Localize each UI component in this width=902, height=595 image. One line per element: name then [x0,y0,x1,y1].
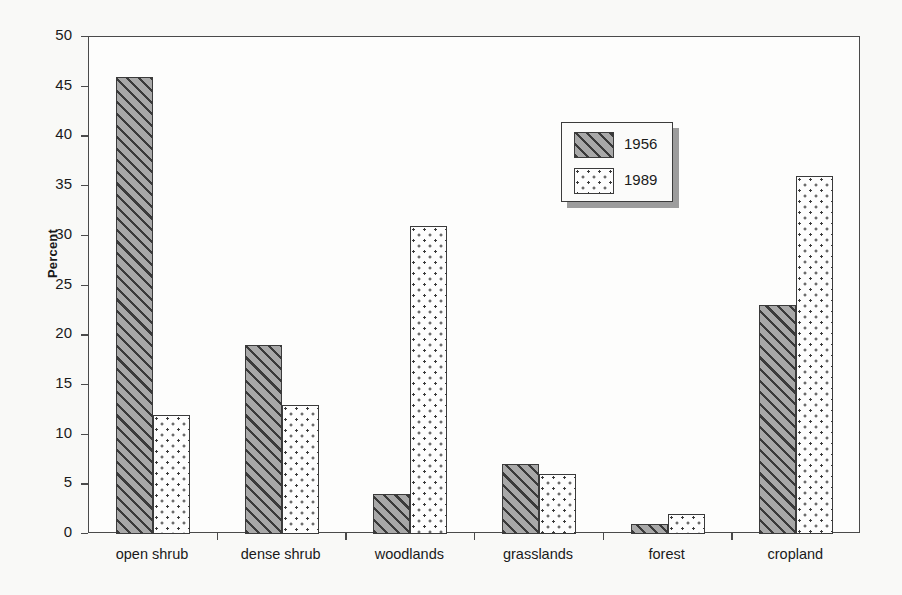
y-axis-tick: 35 [0,185,88,186]
bar-open-shrub-1956 [116,77,153,534]
legend-swatch-1956 [574,132,614,158]
y-axis-tick-mark [81,384,88,385]
y-axis-tick: 45 [0,86,88,87]
y-axis-tick-label: 5 [64,473,72,490]
plot-area [88,36,860,533]
bar-woodlands-1989 [410,226,447,534]
y-axis-tick-mark [81,533,88,534]
x-axis-category-label: woodlands [375,546,444,562]
bar-forest-1956 [631,524,668,534]
y-axis-tick: 20 [0,334,88,335]
y-axis-tick-mark [81,334,88,335]
y-axis-tick-label: 10 [55,424,72,441]
y-axis-tick-label: 40 [55,125,72,142]
x-axis-category-label: open shrub [116,546,189,562]
bar-grasslands-1989 [539,474,576,534]
bar-open-shrub-1989 [153,415,190,534]
y-axis-tick-mark [81,285,88,286]
y-axis-tick-mark [81,36,88,37]
y-axis-tick-label: 50 [55,26,72,43]
y-axis-title: Percent [45,194,60,314]
legend: 1956 1989 [561,122,673,202]
bar-dense-shrub-1989 [282,405,319,534]
y-axis-tick: 30 [0,235,88,236]
x-axis-tick-mark [603,533,604,540]
y-axis-tick-label: 45 [55,76,72,93]
y-axis-tick-mark [81,483,88,484]
x-axis-category-label: grasslands [503,546,573,562]
y-axis-tick-label: 20 [55,324,72,341]
y-axis-tick-label: 35 [55,175,72,192]
y-axis-tick-label: 30 [55,225,72,242]
y-axis-tick-mark [81,434,88,435]
bar-chart-figure: Percent 05101520253035404550 open shrubd… [0,0,902,595]
bar-cropland-1989 [796,176,833,534]
y-axis-tick: 5 [0,483,88,484]
y-axis-tick: 50 [0,36,88,37]
bar-forest-1989 [668,514,705,534]
y-axis-tick-label: 25 [55,275,72,292]
bar-dense-shrub-1956 [245,345,282,534]
y-axis-tick-label: 15 [55,374,72,391]
x-axis-tick-mark [345,533,346,540]
legend-label-1989: 1989 [624,171,657,188]
legend-label-1956: 1956 [624,135,657,152]
bar-grasslands-1956 [502,464,539,534]
bar-woodlands-1956 [373,494,410,534]
x-axis-tick-mark [731,533,732,540]
x-axis-tick-mark [217,533,218,540]
x-axis-category-label: cropland [768,546,824,562]
x-axis-category-label: forest [649,546,685,562]
y-axis-tick-mark [81,235,88,236]
y-axis-tick-mark [81,135,88,136]
x-axis-category-label: dense shrub [241,546,321,562]
y-axis-tick: 15 [0,384,88,385]
y-axis-tick: 0 [0,533,88,534]
y-axis-tick-label: 0 [64,523,72,540]
y-axis-tick-mark [81,185,88,186]
y-axis-tick: 10 [0,434,88,435]
y-axis-tick: 25 [0,285,88,286]
y-axis-tick: 40 [0,135,88,136]
y-axis-tick-mark [81,86,88,87]
bar-cropland-1956 [759,305,796,534]
legend-swatch-1989 [574,168,614,194]
x-axis-tick-mark [474,533,475,540]
